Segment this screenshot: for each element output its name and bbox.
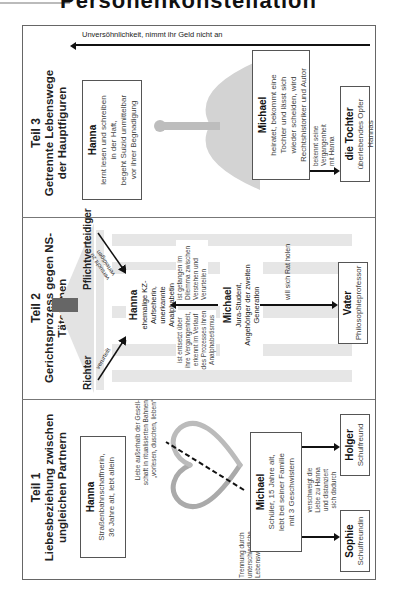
teil1-hanna-box: Hanna Straßenbahnschaffnerin, 36 Jahre a… — [80, 436, 126, 558]
conceal-line: verschweigt die — [306, 455, 314, 525]
arrow-michael-to-vater — [260, 304, 336, 306]
teil3-michael-desc: Tochter und lässt sich — [279, 51, 289, 179]
bekennt-note: bekennt seine Vergangenheit mit Hanna — [312, 106, 336, 166]
holger-name: Holger — [343, 415, 356, 475]
teil1-michael-box: Michael Schüler, 15 Jahre alt, lebt bei … — [250, 432, 302, 552]
unversoehnlichkeit-label: Unversöhnlichkeit, nimmt ihr Geld nicht … — [82, 30, 362, 39]
sophie-name: Sophie — [343, 511, 356, 571]
bekennt-line: bekennt seine — [312, 106, 320, 166]
teil3-title-line1: Getrennte Lebenswege — [43, 58, 56, 208]
teil2-hanna-name: Hanna — [128, 270, 140, 340]
vater-desc: Philosophieprofessor — [354, 263, 364, 343]
entsetzt-line: Analphabetismus — [208, 310, 216, 370]
teil3-hanna-desc: vor ihrer Begnadigung — [129, 81, 139, 199]
broken-hearts-icon — [162, 410, 247, 520]
arrow-michael-to-hanna — [172, 304, 218, 306]
pflichtverteidiger-label: Pflichtverteidiger — [82, 208, 93, 290]
tochter-desc: überlebendes Opfer Hannas — [356, 87, 376, 181]
entsetzt-line: erkennt im Verlauf — [192, 310, 200, 370]
courthouse-column — [112, 234, 352, 246]
rat-label: will sich Rat holen — [284, 244, 291, 300]
page-heading-fragment: Personenkonstellation — [60, 0, 390, 8]
justice-statue-icon — [52, 298, 78, 312]
conceal-line: sich dadurch — [330, 455, 338, 525]
teil1-conceal-note: verschweigt die Liebe zu Hanna und dista… — [306, 455, 338, 525]
dilemma-line: Verstehen und — [192, 240, 200, 300]
bekennt-line: Vergangenheit — [320, 106, 328, 166]
teil1-heading: Teil 1 Liebesbeziehung zwischen ungleich… — [30, 405, 69, 570]
teil3-hanna-desc: lernt lesen und schreiben — [99, 81, 109, 199]
dilemma-note: ist gefangen im Dilemma zwischen Versteh… — [176, 240, 208, 300]
teil3-hanna-name: Hanna — [86, 81, 99, 199]
love-note-line: Liebe außerhalb der Gesell- — [134, 400, 142, 550]
arrow-michael-to-holger — [302, 446, 338, 448]
teil1-title-line2: ungleichen Partnern — [56, 405, 69, 570]
love-note-line: „vorlesen, duschen, lieben“ — [150, 400, 158, 550]
teil2-michael-desc: Jura-Student, — [234, 250, 243, 360]
courthouse-column — [112, 370, 352, 382]
teil1-michael-name: Michael — [254, 433, 267, 551]
teil2-michael-desc: Angehöriger der zweiten Generation — [243, 250, 261, 360]
teil3-hanna-desc: in der Haft, — [109, 81, 119, 199]
love-note-line: schaft in ritualisierten Bahnen — [142, 400, 150, 550]
tochter-box: die Tochter überlebendes Opfer Hannas — [340, 86, 370, 182]
teil1-hanna-name: Hanna — [84, 437, 97, 557]
conceal-line: und distanziert — [322, 455, 330, 525]
entsetzt-line: ist entsetzt über — [176, 310, 184, 370]
dilemma-line: Verurteilen — [200, 240, 208, 300]
bekennt-line: mit Hanna — [328, 106, 336, 166]
teil2-michael-name: Michael — [222, 250, 234, 360]
separation-line: Trennung durch — [238, 516, 246, 578]
teil3-hanna-box: Hanna lernt lesen und schreiben in der H… — [82, 80, 142, 200]
vater-name: Vater — [341, 263, 354, 343]
holger-box: Holger Schulfreund — [340, 414, 370, 476]
teil1-michael-desc: Schüler, 15 Jahre alt, — [267, 433, 277, 551]
sophie-box: Sophie Schulfreundin — [340, 510, 370, 572]
teil2-number: Teil 2 — [30, 218, 43, 398]
divider-teil1-teil2 — [22, 399, 375, 400]
arrow-tochter-line — [74, 44, 370, 46]
teil3-heading: Teil 3 Getrennte Lebenswege der Hauptfig… — [30, 58, 69, 208]
teil1-title-line1: Liebesbeziehung zwischen — [43, 405, 56, 570]
teil3-michael-desc: heiratet, bekommt eine — [269, 51, 279, 179]
tochter-name: die Tochter — [343, 87, 356, 181]
entsetzt-note: ist entsetzt über ihre Vergangenheit, er… — [176, 310, 216, 370]
richter-label: Richter — [82, 356, 93, 390]
conceal-line: Liebe zu Hanna — [314, 455, 322, 525]
arrow-michael-to-sophie — [302, 536, 338, 538]
teil3-michael-desc: wieder scheiden, wird — [289, 51, 299, 179]
sophie-desc: Schulfreundin — [356, 511, 366, 571]
teil1-hanna-desc-2: 36 Jahre alt, lebt allein — [107, 437, 117, 557]
teil3-michael-desc: Rechtshistoriker und Autor — [299, 51, 309, 179]
teil3-hanna-desc: begeht Suizid unmittelbar — [119, 81, 129, 199]
teil1-michael-desc: mit 3 Geschwistern — [287, 433, 297, 551]
teil3-number: Teil 3 — [30, 58, 43, 208]
dilemma-line: Dilemma zwischen — [184, 240, 192, 300]
holger-desc: Schulfreund — [356, 415, 366, 475]
teil3-michael-box: Michael heiratet, bekommt eine Tochter u… — [252, 50, 310, 180]
teil1-hanna-desc: Straßenbahnschaffnerin, — [97, 437, 107, 557]
teil3-michael-name: Michael — [256, 51, 269, 179]
teil3-title-line2: der Hauptfiguren — [56, 58, 69, 208]
dilemma-line: ist gefangen im — [176, 240, 184, 300]
diagram-rotated: Teil 1 Liebesbeziehung zwischen ungleich… — [22, 25, 376, 580]
entsetzt-line: ihre Vergangenheit, — [184, 310, 192, 370]
teil2-hanna-desc: ehemalige KZ-Aufseherin, — [140, 270, 158, 340]
teil1-love-note: Liebe außerhalb der Gesell- schaft in ri… — [134, 400, 158, 550]
teil2-michael-node: Michael Jura-Student, Angehöriger der zw… — [220, 250, 263, 360]
arrow-tochter-head — [70, 42, 76, 50]
vater-box: Vater Philosophieprofessor — [338, 262, 368, 344]
entsetzt-line: des Prozesses ihren — [200, 310, 208, 370]
teil1-number: Teil 1 — [30, 405, 43, 570]
arrow-michael-to-tochter — [310, 170, 338, 172]
teil1-michael-desc: lebt bei seiner Familie — [277, 433, 287, 551]
